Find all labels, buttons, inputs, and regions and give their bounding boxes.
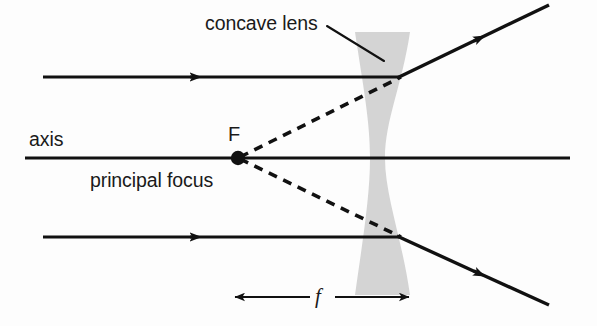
refracted-ray-lower-segment-2 <box>474 271 549 305</box>
principal-focus-label: principal focus <box>90 171 213 191</box>
refracted-ray-lower-segment-1 <box>397 236 480 274</box>
axis-label: axis <box>29 130 63 150</box>
diagram-canvas <box>0 0 597 326</box>
principal-focus-dot <box>231 151 245 165</box>
refracted-ray-upper-segment-2 <box>474 5 549 41</box>
focus-point-label: F <box>228 124 240 144</box>
concave-lens-body <box>355 32 410 295</box>
concave-lens-label: concave lens <box>205 14 318 34</box>
refracted-ray-upper-segment-1 <box>397 38 480 78</box>
ray-diagram-figure: concave lens axis F principal focus f <box>0 0 597 326</box>
focal-length-label: f <box>315 286 321 307</box>
